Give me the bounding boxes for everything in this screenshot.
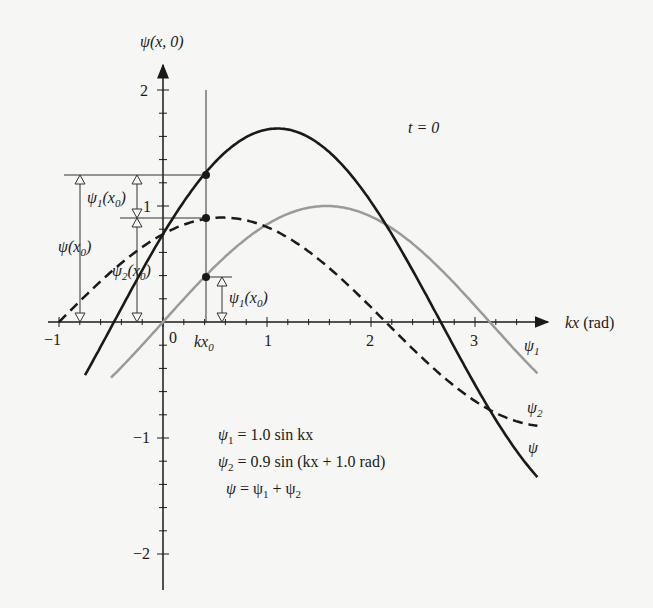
superposition-chart: ψ(x, 0) kx(rad) t = 0 −1 0 1 2 3 2 1 −1 … [0, 0, 653, 608]
psi1-x0-right-label: ψ1(x0) [229, 289, 268, 309]
svg-text:−1: −1 [44, 331, 61, 348]
svg-text:2: 2 [140, 82, 148, 99]
svg-text:2: 2 [366, 332, 374, 349]
psi1-x0-left-label: ψ1(x0) [87, 189, 126, 209]
svg-text:3: 3 [470, 332, 478, 349]
time-label: t = 0 [408, 119, 439, 136]
svg-text:1: 1 [143, 198, 151, 215]
x-axis-label: kx(rad) [565, 314, 614, 332]
equations-legend: ψ1 = 1.0 sin kx ψ2 = 0.9 sin (kx + 1.0 r… [218, 426, 385, 500]
curve-psi [85, 129, 537, 478]
psi2-x0-label: ψ2(x0) [112, 262, 151, 282]
kx0-label: kx0 [194, 333, 214, 353]
y-axis-label: ψ(x, 0) [140, 33, 184, 51]
point-psi2 [202, 214, 210, 222]
equation-psi2: ψ2 = 0.9 sin (kx + 1.0 rad) [218, 453, 385, 473]
curve-label-psi2: ψ2 [527, 399, 543, 419]
svg-text:0: 0 [169, 329, 177, 346]
point-psi [202, 171, 210, 179]
curve-psi1 [111, 206, 537, 378]
equation-psi1: ψ1 = 1.0 sin kx [218, 426, 313, 446]
curve-label-psi: ψ [528, 439, 539, 457]
svg-text:1: 1 [264, 332, 272, 349]
svg-text:−2: −2 [133, 545, 150, 562]
svg-text:−1: −1 [133, 429, 150, 446]
equation-psi: ψ = ψ1 + ψ2 [226, 480, 301, 500]
axes [48, 65, 548, 590]
curve-label-psi1: ψ1 [524, 337, 539, 357]
psi-x0-label: ψ(x0) [58, 238, 91, 258]
point-psi1 [202, 273, 210, 281]
